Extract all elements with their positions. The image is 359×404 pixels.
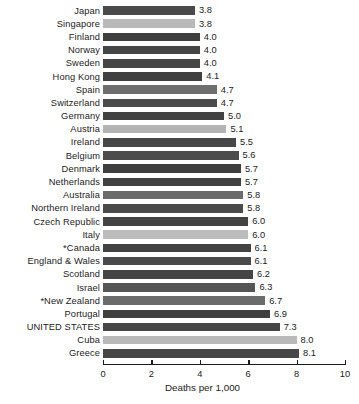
bar (103, 310, 270, 319)
x-axis-tick (297, 360, 298, 365)
bar-row: *Canada6.1 (0, 241, 359, 254)
bar-category-label: *Canada (0, 243, 103, 253)
bar-track: 6.9 (103, 307, 345, 320)
bar-track: 6.2 (103, 268, 345, 281)
bar-track: 5.6 (103, 149, 345, 162)
bar-category-label: Northern Ireland (0, 203, 103, 213)
bar-category-label: Hong Kong (0, 72, 103, 82)
bar-category-label: Spain (0, 85, 103, 95)
bar-category-label: Czech Republic (0, 217, 103, 227)
bar-chart: Japan3.8Singapore3.8Finland4.0Norway4.0S… (0, 0, 359, 404)
bar-track: 6.1 (103, 241, 345, 254)
bar-row: Austria5.1 (0, 123, 359, 136)
bar-row: Greece8.1 (0, 347, 359, 360)
bar-row: Hong Kong4.1 (0, 70, 359, 83)
x-axis-tick-label: 6 (246, 369, 251, 379)
bar-track: 7.3 (103, 321, 345, 334)
x-axis-tick-label: 4 (197, 369, 202, 379)
bar-category-label: UNITED STATES (0, 322, 103, 332)
bar (103, 72, 202, 81)
x-axis-line (103, 364, 345, 365)
bar-value-label: 4.7 (221, 98, 234, 108)
bar-row: Portugal6.9 (0, 307, 359, 320)
bar-row: Switzerland4.7 (0, 96, 359, 109)
bar-value-label: 4.0 (204, 45, 217, 55)
bar (103, 323, 280, 332)
bar-category-label: Sweden (0, 58, 103, 68)
bar (103, 19, 195, 28)
x-axis-tick-label: 2 (149, 369, 154, 379)
bar-category-label: Germany (0, 111, 103, 121)
bar (103, 112, 224, 121)
bar-track: 6.0 (103, 215, 345, 228)
bar-value-label: 6.0 (252, 216, 265, 226)
bar-value-label: 3.8 (199, 19, 212, 29)
bar (103, 151, 239, 160)
bar (103, 296, 265, 305)
bar-value-label: 5.7 (245, 177, 258, 187)
bar-track: 5.7 (103, 162, 345, 175)
x-axis: 0246810 (103, 364, 345, 365)
bar-category-label: Ireland (0, 137, 103, 147)
bar-track: 4.0 (103, 44, 345, 57)
bar-row: Japan3.8 (0, 4, 359, 17)
bar (103, 349, 299, 358)
bar-row: Singapore3.8 (0, 17, 359, 30)
bar-category-label: Greece (0, 348, 103, 358)
bar-track: 3.8 (103, 17, 345, 30)
bar-category-label: Switzerland (0, 98, 103, 108)
bar-track: 5.7 (103, 175, 345, 188)
bar (103, 138, 236, 147)
bar-category-label: Australia (0, 190, 103, 200)
bar-category-label: Portugal (0, 309, 103, 319)
bar-row: Italy6.0 (0, 228, 359, 241)
bar-row: Belgium5.6 (0, 149, 359, 162)
x-axis-tick-label: 8 (294, 369, 299, 379)
bar (103, 6, 195, 15)
bar-track: 6.1 (103, 255, 345, 268)
bar-value-label: 6.7 (269, 296, 282, 306)
bar-track: 6.7 (103, 294, 345, 307)
bar-track: 5.8 (103, 189, 345, 202)
bar-track: 4.7 (103, 96, 345, 109)
bar-row: Netherlands5.7 (0, 175, 359, 188)
bar-category-label: Finland (0, 32, 103, 42)
bar-value-label: 6.1 (255, 243, 268, 253)
bar-row: Australia5.8 (0, 189, 359, 202)
bar-track: 5.0 (103, 110, 345, 123)
bar-value-label: 5.6 (243, 150, 256, 160)
bar (103, 191, 243, 200)
bar-value-label: 3.8 (199, 5, 212, 15)
bar-track: 8.0 (103, 334, 345, 347)
bar-value-label: 5.8 (247, 203, 260, 213)
bar (103, 270, 253, 279)
bar (103, 217, 248, 226)
x-axis-title: Deaths per 1,000 (0, 382, 359, 393)
bar-value-label: 5.1 (230, 124, 243, 134)
bar-value-label: 4.1 (206, 71, 219, 81)
bar-category-label: Norway (0, 45, 103, 55)
plot-area: Japan3.8Singapore3.8Finland4.0Norway4.0S… (0, 4, 359, 360)
bar (103, 283, 255, 292)
bar-row: UNITED STATES7.3 (0, 321, 359, 334)
bar (103, 99, 217, 108)
bar-category-label: Cuba (0, 335, 103, 345)
bar-value-label: 6.3 (259, 282, 272, 292)
bar (103, 125, 226, 134)
bar (103, 59, 200, 68)
bar-category-label: Belgium (0, 151, 103, 161)
bar-track: 6.3 (103, 281, 345, 294)
bar-row: Germany5.0 (0, 110, 359, 123)
bar-category-label: Scotland (0, 269, 103, 279)
bar-value-label: 5.7 (245, 164, 258, 174)
bar-track: 5.1 (103, 123, 345, 136)
bar-track: 4.1 (103, 70, 345, 83)
bar-row: Ireland5.5 (0, 136, 359, 149)
x-axis-tick (200, 360, 201, 365)
x-axis-tick (151, 360, 152, 365)
bar-track: 6.0 (103, 228, 345, 241)
bar-row: Northern Ireland5.8 (0, 202, 359, 215)
bar-category-label: Denmark (0, 164, 103, 174)
bar-category-label: Austria (0, 124, 103, 134)
bar-category-label: England & Wales (0, 256, 103, 266)
